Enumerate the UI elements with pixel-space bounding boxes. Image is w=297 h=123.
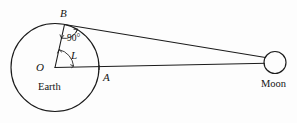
label-point-a: A (103, 72, 110, 83)
geometry-drawing (0, 0, 297, 123)
moon-circle (264, 52, 286, 74)
label-point-o: O (36, 62, 44, 73)
label-angle-90: 90° (67, 34, 80, 44)
segment-b-to-moon (65, 25, 266, 58)
label-moon: Moon (261, 79, 286, 90)
label-point-b: B (60, 8, 67, 19)
label-angle-l: L (71, 50, 77, 61)
label-earth: Earth (38, 82, 61, 93)
segment-o-to-b (55, 25, 65, 68)
diagram-canvas: B O A 90° L Earth Moon (0, 0, 297, 123)
segment-o-to-moon (55, 63, 265, 67)
